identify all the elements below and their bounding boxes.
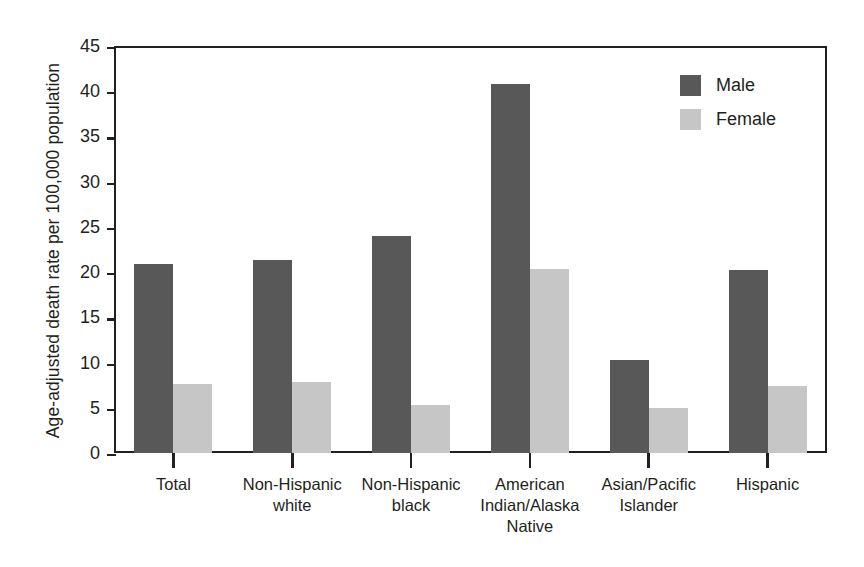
bar-female	[411, 405, 450, 453]
bar-male	[253, 260, 292, 453]
bar-female	[649, 408, 688, 453]
bar-male	[491, 84, 530, 453]
bar-female	[173, 384, 212, 453]
y-tick-label: 15	[60, 307, 100, 328]
x-axis-tick	[529, 453, 532, 468]
x-axis-category-line: Hispanic	[678, 474, 858, 495]
y-tick-label: 25	[60, 217, 100, 238]
y-tick-label: 0	[60, 443, 100, 464]
bar-male	[610, 360, 649, 453]
y-tick-label: 30	[60, 172, 100, 193]
x-axis-tick	[410, 453, 413, 468]
x-axis-tick	[291, 453, 294, 468]
bar-male	[134, 264, 173, 453]
bar-male	[729, 270, 768, 453]
y-tick-label: 35	[60, 126, 100, 147]
bar-chart-figure: Age-adjusted death rate per 100,000 popu…	[0, 0, 864, 567]
y-tick-label: 45	[60, 36, 100, 57]
x-axis-category-line: Native	[440, 516, 620, 537]
y-tick-label: 5	[60, 398, 100, 419]
bar-female	[530, 269, 569, 453]
x-axis-tick	[647, 453, 650, 468]
bar-female	[292, 382, 331, 453]
y-tick-label: 10	[60, 353, 100, 374]
x-axis-tick	[766, 453, 769, 468]
bar-male	[372, 236, 411, 453]
chart-legend: MaleFemale	[680, 68, 776, 136]
legend-item-male: Male	[680, 68, 776, 102]
x-axis-category-line: Islander	[559, 495, 739, 516]
legend-label: Male	[716, 75, 755, 96]
x-axis-tick	[172, 453, 175, 468]
x-axis-category-label: Hispanic	[678, 474, 858, 495]
legend-label: Female	[716, 109, 776, 130]
bar-female	[768, 386, 807, 453]
y-tick-mark	[107, 454, 116, 456]
legend-swatch-icon	[680, 75, 701, 96]
y-tick-label: 40	[60, 81, 100, 102]
legend-swatch-icon	[680, 109, 701, 130]
y-tick-label: 20	[60, 262, 100, 283]
legend-item-female: Female	[680, 102, 776, 136]
